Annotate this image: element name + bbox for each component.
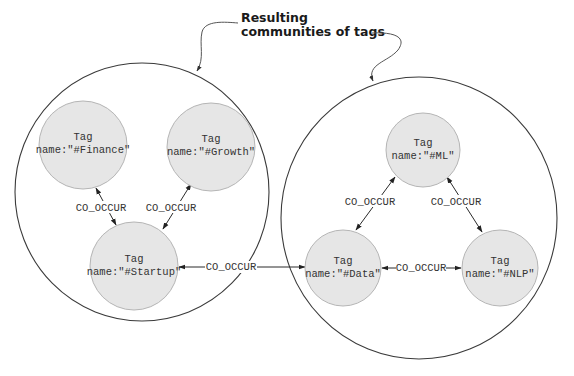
callout-line-2: communities of tags <box>241 24 385 39</box>
node-name-property: name:"#NLP" <box>465 268 534 280</box>
node-data[interactable]: Tag name:"#Data" <box>305 230 381 306</box>
node-type-label: Tag <box>202 133 221 145</box>
node-type-label: Tag <box>491 255 510 267</box>
callout-arrow-left <box>197 22 238 71</box>
node-type-label: Tag <box>74 131 93 143</box>
diagram-canvas: Resulting communities of tags CO_OCCUR C… <box>0 0 574 376</box>
node-growth[interactable]: Tag name:"#Growth" <box>167 103 255 191</box>
node-ml[interactable]: Tag name:"#ML" <box>386 113 460 187</box>
edge-ml-data: CO_OCCUR <box>345 177 396 230</box>
node-finance[interactable]: Tag name:"#Finance" <box>36 101 131 189</box>
edge-label: CO_OCCUR <box>431 196 482 208</box>
edge-finance-startup: CO_OCCUR <box>76 188 127 225</box>
callout-line-1: Resulting <box>241 10 308 25</box>
node-type-label: Tag <box>125 253 144 265</box>
edge-label: CO_OCCUR <box>76 202 127 214</box>
edge-label: CO_OCCUR <box>396 262 447 274</box>
callout-arrow-right <box>372 33 401 81</box>
node-name-property: name:"#ML" <box>391 150 454 162</box>
node-name-property: name:"#Data" <box>305 268 381 280</box>
edge-data-nlp: CO_OCCUR <box>382 262 461 274</box>
node-startup[interactable]: Tag name:"#Startup" <box>87 222 182 310</box>
edge-label: CO_OCCUR <box>206 261 257 273</box>
node-type-label: Tag <box>334 255 353 267</box>
edge-label: CO_OCCUR <box>146 202 197 214</box>
edge-startup-data: CO_OCCUR <box>179 261 305 273</box>
node-name-property: name:"#Finance" <box>36 144 131 156</box>
node-nlp[interactable]: Tag name:"#NLP" <box>462 230 538 306</box>
node-type-label: Tag <box>414 137 433 149</box>
edge-ml-nlp: CO_OCCUR <box>431 177 482 232</box>
node-name-property: name:"#Startup" <box>87 266 182 278</box>
callout: Resulting communities of tags <box>197 10 401 81</box>
edge-growth-startup: CO_OCCUR <box>146 184 197 229</box>
edge-label: CO_OCCUR <box>345 196 396 208</box>
node-name-property: name:"#Growth" <box>167 146 255 158</box>
